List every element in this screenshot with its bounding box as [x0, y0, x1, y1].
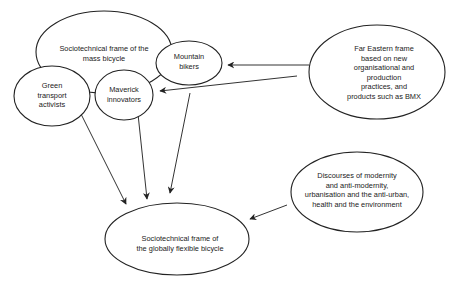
node-discourses-label: Discourses of modernity and anti-moderni… [305, 171, 409, 209]
arrow-green-to-flexible [80, 112, 126, 204]
node-green-label: Green transport activists [37, 81, 66, 110]
arrow-mountain-to-flexible [170, 93, 190, 193]
node-maverick-label: Maverick innovators [107, 85, 141, 104]
arrow-maverick-to-flexible [138, 114, 147, 199]
node-fareast-label: Far Eastern frame based on new organisat… [344, 44, 424, 101]
node-mountain-label: Mountain bikers [174, 52, 204, 71]
arrow-discourses-to-flexible [250, 205, 287, 219]
node-flexible-label: Sociotechnical frame of the globally fle… [136, 234, 223, 253]
node-mass-label: Sociotechnical frame of the mass bicycle [59, 44, 148, 63]
